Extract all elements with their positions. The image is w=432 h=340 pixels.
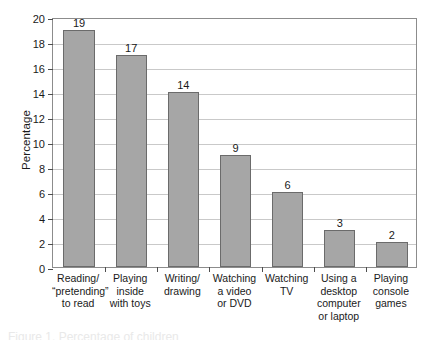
bar-value-label: 14 — [177, 79, 189, 91]
bar-chart-figure: Percentage 024681012141618201917149632 F… — [0, 0, 432, 340]
y-axis-tick-label: 4 — [39, 213, 45, 225]
y-axis-tick-label: 0 — [39, 263, 45, 275]
plot-area: 024681012141618201917149632 — [52, 18, 417, 268]
y-axis-tick — [48, 169, 53, 170]
y-axis-tick — [48, 69, 53, 70]
bar: 9 — [220, 155, 251, 268]
y-axis-tick-label: 10 — [33, 138, 45, 150]
y-axis-tick-label: 16 — [33, 63, 45, 75]
x-axis-category-label: Watching TV — [261, 272, 313, 297]
y-axis-tick — [48, 269, 53, 270]
y-axis-tick — [48, 19, 53, 20]
y-axis-tick — [48, 244, 53, 245]
y-axis-tick — [48, 219, 53, 220]
bar: 3 — [324, 230, 355, 268]
y-axis-tick-label: 8 — [39, 163, 45, 175]
bar-value-label: 19 — [73, 17, 85, 29]
y-axis-tick-label: 20 — [33, 13, 45, 25]
x-axis-category-label: Playing console games — [365, 272, 417, 310]
x-axis-category-label: Reading/ “pretending” to read — [52, 272, 104, 310]
y-axis-tick — [48, 94, 53, 95]
y-axis-tick — [48, 44, 53, 45]
x-axis-category-label: Using a desktop computer or laptop — [313, 272, 365, 322]
bar: 6 — [272, 192, 303, 267]
gridline — [53, 69, 416, 70]
x-axis-category-label: Writing/ drawing — [156, 272, 208, 297]
x-axis-category-label: Watching a video or DVD — [208, 272, 260, 310]
y-axis-tick-label: 18 — [33, 38, 45, 50]
y-axis-tick — [48, 144, 53, 145]
y-axis-tick-label: 2 — [39, 238, 45, 250]
bar: 17 — [116, 55, 147, 268]
y-axis-tick-label: 14 — [33, 88, 45, 100]
bar: 14 — [168, 92, 199, 267]
y-axis-tick — [48, 194, 53, 195]
bar-value-label: 6 — [285, 179, 291, 191]
y-axis-tick — [48, 119, 53, 120]
bar-value-label: 3 — [337, 217, 343, 229]
bar: 2 — [376, 242, 407, 267]
y-axis-tick-label: 12 — [33, 113, 45, 125]
x-axis-category-label: Playing inside with toys — [104, 272, 156, 310]
gridline — [53, 119, 416, 120]
bar-value-label: 17 — [125, 42, 137, 54]
bar: 19 — [63, 30, 94, 268]
bar-value-label: 9 — [232, 142, 238, 154]
gridline — [53, 94, 416, 95]
y-axis-tick-label: 6 — [39, 188, 45, 200]
gridline — [53, 44, 416, 45]
bar-value-label: 2 — [389, 229, 395, 241]
cut-off-caption: Figure 1. Percentage of children — [8, 331, 248, 340]
